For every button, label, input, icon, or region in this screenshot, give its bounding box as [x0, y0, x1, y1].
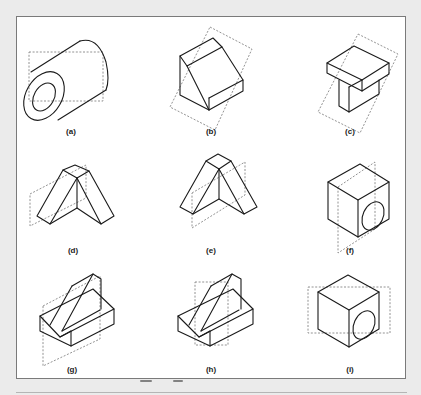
- label-b: (b): [206, 127, 216, 136]
- bottom-rule: [16, 392, 407, 393]
- figure-b-inclined-block: [170, 27, 252, 130]
- label-c: (c): [345, 127, 355, 136]
- figure-a-hollow-cylinder: [15, 40, 108, 127]
- figure-d-a-frame: [30, 165, 114, 226]
- figure-h-ribbed-block: [178, 274, 253, 346]
- isometric-figures: [0, 0, 421, 395]
- label-d: (d): [68, 246, 78, 255]
- figure-e-a-frame: [180, 154, 257, 228]
- label-i: (i): [346, 365, 354, 374]
- figure-g-ribbed-block: [40, 274, 114, 366]
- label-h: (h): [206, 365, 216, 374]
- figure-c-t-block: [318, 34, 398, 133]
- label-e: (e): [206, 246, 216, 255]
- scan-smudge: [140, 380, 152, 382]
- scan-smudge: [173, 380, 183, 382]
- label-g: (g): [67, 365, 77, 374]
- label-f: (f): [346, 246, 354, 255]
- label-a: (a): [66, 127, 76, 136]
- figure-f-cube-with-hole: [328, 162, 389, 253]
- figure-i-cube-with-hole: [308, 275, 390, 347]
